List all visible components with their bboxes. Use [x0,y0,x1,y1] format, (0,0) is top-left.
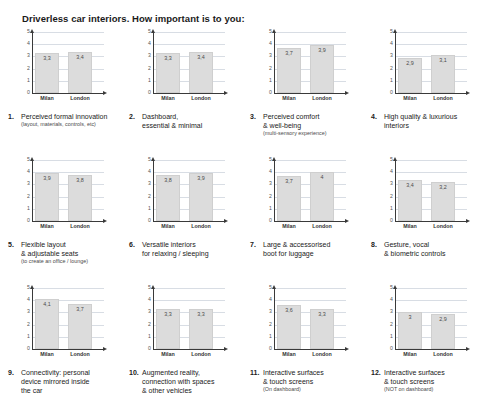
chart-title-block: High quality & luxurious interiors [384,112,457,130]
y-axis-labels: 543210 [139,32,151,94]
chart-title: Dashboard, essential & minimal [142,113,202,129]
x-axis-category: London [310,96,334,101]
y-axis-tick: 1 [148,78,151,83]
y-axis-tick: 0 [269,90,272,95]
y-axis-tick: 2 [148,322,151,327]
chart-number: 1. [8,112,18,121]
x-axis-category: London [68,352,92,357]
bar: 4,1 [35,299,59,349]
bar-series: 3,43,2 [398,160,464,221]
bar-series: 3,33,3 [156,288,222,349]
chart-title-block: Interactive surfaces & touch screens(NOT… [384,368,445,394]
y-axis-tick: 1 [148,334,151,339]
bar-series: 3,93,8 [35,160,101,221]
chart-title: Perceived formal innovation [21,113,107,120]
bar-value-label: 3,9 [36,176,58,181]
x-axis-labels: MilanLondon [277,96,343,101]
y-axis-tick: 2 [148,194,151,199]
bar-series: 3,33,4 [156,32,222,93]
y-axis-tick: 0 [390,218,393,223]
chart-panel: 5432103,74MilanLondon7.Large & accessori… [242,160,363,288]
bar: 3,9 [310,45,334,93]
chart-subtitle: (multi-sensory experience) [263,130,327,138]
chart-panel: 5432103,33,4MilanLondon1.Perceived forma… [0,32,121,160]
bar: 3 [398,312,422,349]
chart-caption: 1.Perceived formal innovation(layout, ma… [8,112,124,129]
x-axis-labels: MilanLondon [398,224,464,229]
bar-chart: 5432103,73,9MilanLondon [260,32,350,102]
bar-value-label: 3,3 [311,312,333,317]
chart-grid: 5432103,33,4MilanLondon1.Perceived forma… [0,32,484,416]
y-axis-labels: 543210 [260,32,272,94]
chart-caption: 11.Interactive surfaces & touch screens(… [250,368,366,394]
bar-value-label: 2,9 [399,61,421,66]
y-axis-line [395,32,396,94]
bar: 3,3 [310,309,334,349]
bar: 3,7 [277,48,301,93]
bar-value-label: 3,8 [157,178,179,183]
y-axis-tick: 4 [27,298,30,303]
y-axis-line [395,288,396,350]
x-axis-category: London [431,96,455,101]
y-axis-line [153,32,154,94]
bar-series: 3,83,9 [156,160,222,221]
bar-value-label: 3,9 [190,176,212,181]
x-axis-labels: MilanLondon [277,352,343,357]
y-axis-tick: 3 [390,182,393,187]
y-axis-tick: 1 [390,78,393,83]
y-axis-tick: 4 [390,298,393,303]
x-axis-labels: MilanLondon [277,224,343,229]
x-axis-category: Milan [35,352,59,357]
chart-caption: 8.Gesture, vocal & biometric controls [371,240,484,258]
bar: 3,4 [189,52,213,93]
bar: 3,4 [68,52,92,93]
bar-value-label: 3,7 [278,51,300,56]
y-axis-tick: 0 [390,90,393,95]
chart-title: Interactive surfaces & touch screens [384,369,445,385]
y-axis-tick: 0 [148,218,151,223]
bar-chart: 5432103,93,8MilanLondon [18,160,108,230]
x-axis-category: Milan [35,96,59,101]
chart-caption: 5.Flexible layout & adjustable seats(to … [8,240,124,266]
x-axis-labels: MilanLondon [156,352,222,357]
x-axis-line [395,93,467,94]
y-axis-tick: 1 [269,334,272,339]
bar: 3,3 [156,309,180,349]
bar-series: 2,93,1 [398,32,464,93]
x-axis-category: London [189,352,213,357]
chart-title: Large & accessorised boot for luggage [263,241,330,257]
x-axis-line [153,93,225,94]
x-axis-category: Milan [156,224,180,229]
y-axis-line [153,288,154,350]
bar-chart: 5432103,33,4MilanLondon [18,32,108,102]
bar: 3,3 [189,309,213,349]
bar-value-label: 3,8 [69,178,91,183]
y-axis-labels: 543210 [260,288,272,350]
chart-title: Versatile interiors for relaxing / sleep… [142,241,209,257]
bar-value-label: 3,4 [190,55,212,60]
chart-caption: 2.Dashboard, essential & minimal [129,112,245,130]
x-axis-labels: MilanLondon [35,224,101,229]
bar: 3,8 [68,175,92,221]
x-axis-category: Milan [156,96,180,101]
y-axis-tick: 3 [148,182,151,187]
chart-panel: 5432104,13,7MilanLondon9.Connectivity: p… [0,288,121,416]
bar-chart: 5432103,43,2MilanLondon [381,160,471,230]
x-axis-labels: MilanLondon [35,96,101,101]
y-axis-tick: 1 [27,334,30,339]
bar: 3,7 [68,304,92,349]
bar: 3,2 [431,182,455,221]
chart-title-block: Perceived comfort & well-being(multi-sen… [263,112,327,138]
y-axis-labels: 543210 [260,160,272,222]
bar-value-label: 3,1 [432,58,454,63]
chart-subtitle: (NOT on dashboard) [384,386,445,394]
x-axis-category: Milan [277,96,301,101]
chart-panel: 5432103,43,2MilanLondon8.Gesture, vocal … [363,160,484,288]
y-axis-labels: 543210 [381,160,393,222]
y-axis-tick: 1 [148,206,151,211]
chart-title-block: Perceived formal innovation(layout, mate… [21,112,107,129]
bar: 3,3 [156,53,180,93]
chart-title-block: Flexible layout & adjustable seats(to cr… [21,240,88,266]
bar: 3,1 [431,55,455,93]
x-axis-category: London [68,224,92,229]
